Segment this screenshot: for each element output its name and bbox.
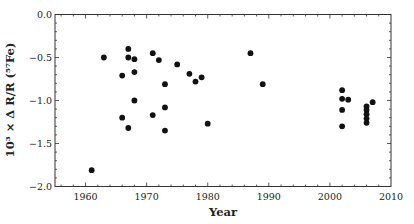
data-point bbox=[339, 123, 345, 129]
data-point bbox=[199, 74, 205, 80]
data-point bbox=[132, 56, 138, 62]
data-point bbox=[125, 125, 131, 131]
data-point bbox=[339, 96, 345, 102]
data-point bbox=[89, 167, 95, 173]
data-point bbox=[162, 128, 168, 134]
x-tick-labels: 196019701980199020002010 bbox=[73, 191, 403, 202]
x-tick-label: 1960 bbox=[73, 191, 97, 202]
data-point bbox=[187, 71, 193, 77]
data-point bbox=[101, 55, 107, 61]
x-tick-label: 2010 bbox=[379, 191, 403, 202]
data-point bbox=[119, 73, 125, 79]
data-point bbox=[248, 50, 254, 56]
data-point bbox=[364, 120, 370, 126]
data-point bbox=[132, 69, 138, 75]
data-point bbox=[370, 99, 376, 105]
data-point bbox=[156, 57, 162, 63]
x-axis-title: Year bbox=[208, 205, 238, 219]
y-tick-label: −1.5 bbox=[29, 138, 52, 149]
data-point bbox=[119, 115, 125, 121]
y-axis-title: 10³ × Δ R/R (⁵⁷Fe) bbox=[3, 43, 17, 158]
y-tick-label: −0.5 bbox=[29, 52, 52, 63]
scatter-chart: 196019701980199020002010 0.0−0.5−1.0−1.5… bbox=[0, 0, 414, 224]
x-tick-label: 1970 bbox=[135, 191, 159, 202]
data-point bbox=[125, 46, 131, 52]
y-tick-label: −2.0 bbox=[29, 181, 52, 192]
data-point bbox=[162, 104, 168, 110]
data-point bbox=[339, 87, 345, 93]
data-point bbox=[150, 112, 156, 118]
data-point bbox=[132, 98, 138, 104]
data-point bbox=[345, 97, 351, 103]
x-tick-label: 1990 bbox=[257, 191, 281, 202]
data-point bbox=[162, 81, 168, 87]
data-point bbox=[150, 50, 156, 56]
y-tick-labels: 0.0−0.5−1.0−1.5−2.0 bbox=[29, 9, 52, 192]
y-tick-label: 0.0 bbox=[37, 9, 52, 20]
x-tick-label: 2000 bbox=[318, 191, 342, 202]
data-point bbox=[260, 81, 266, 87]
data-point bbox=[125, 55, 131, 61]
data-point bbox=[174, 61, 180, 67]
data-points bbox=[89, 46, 376, 173]
y-tick-label: −1.0 bbox=[29, 95, 52, 106]
data-point bbox=[193, 79, 199, 85]
data-point bbox=[205, 121, 211, 127]
x-tick-label: 1980 bbox=[196, 191, 220, 202]
data-point bbox=[339, 107, 345, 113]
